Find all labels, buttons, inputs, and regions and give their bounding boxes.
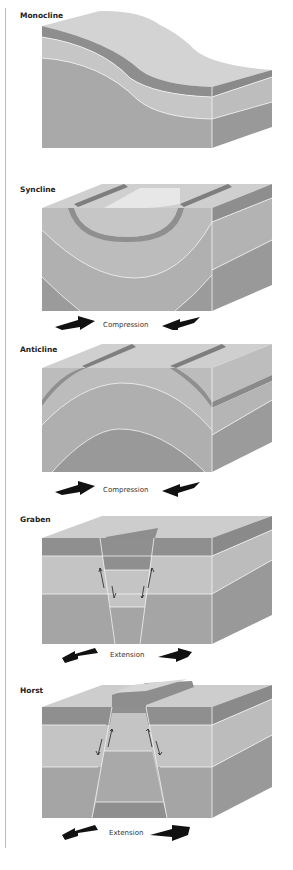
panel-syncline: Syncline Compression	[0, 170, 293, 330]
monocline-diagram	[0, 0, 293, 165]
extension-arrow-left	[62, 648, 98, 663]
panel-anticline: Anticline Compression	[0, 330, 293, 500]
graben-diagram: Extension	[0, 500, 293, 665]
panel-horst: Horst Extension	[0, 665, 293, 865]
compression-arrow-right	[162, 317, 200, 330]
force-label: Compression	[103, 486, 148, 494]
syncline-diagram: Compression	[0, 170, 293, 330]
force-label: Compression	[103, 321, 148, 329]
panel-monocline: Monocline	[0, 0, 293, 165]
compression-arrow-right	[162, 482, 200, 497]
anticline-diagram: Compression	[0, 330, 293, 500]
panel-graben: Graben Extension	[0, 500, 293, 665]
extension-arrow-left	[62, 825, 98, 840]
compression-arrow-left	[55, 316, 95, 330]
force-label: Extension	[109, 829, 143, 837]
horst-diagram: Extension	[0, 665, 293, 865]
compression-arrow-left	[55, 481, 95, 495]
force-label: Extension	[110, 651, 144, 659]
extension-arrow-right	[158, 648, 192, 662]
extension-arrow-right	[150, 825, 190, 841]
